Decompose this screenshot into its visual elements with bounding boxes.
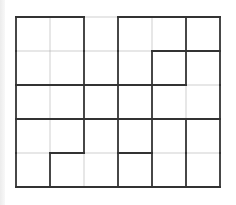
partition-grid: [0, 0, 236, 205]
diagram-canvas: [0, 0, 236, 205]
region-boundaries: [16, 17, 220, 187]
